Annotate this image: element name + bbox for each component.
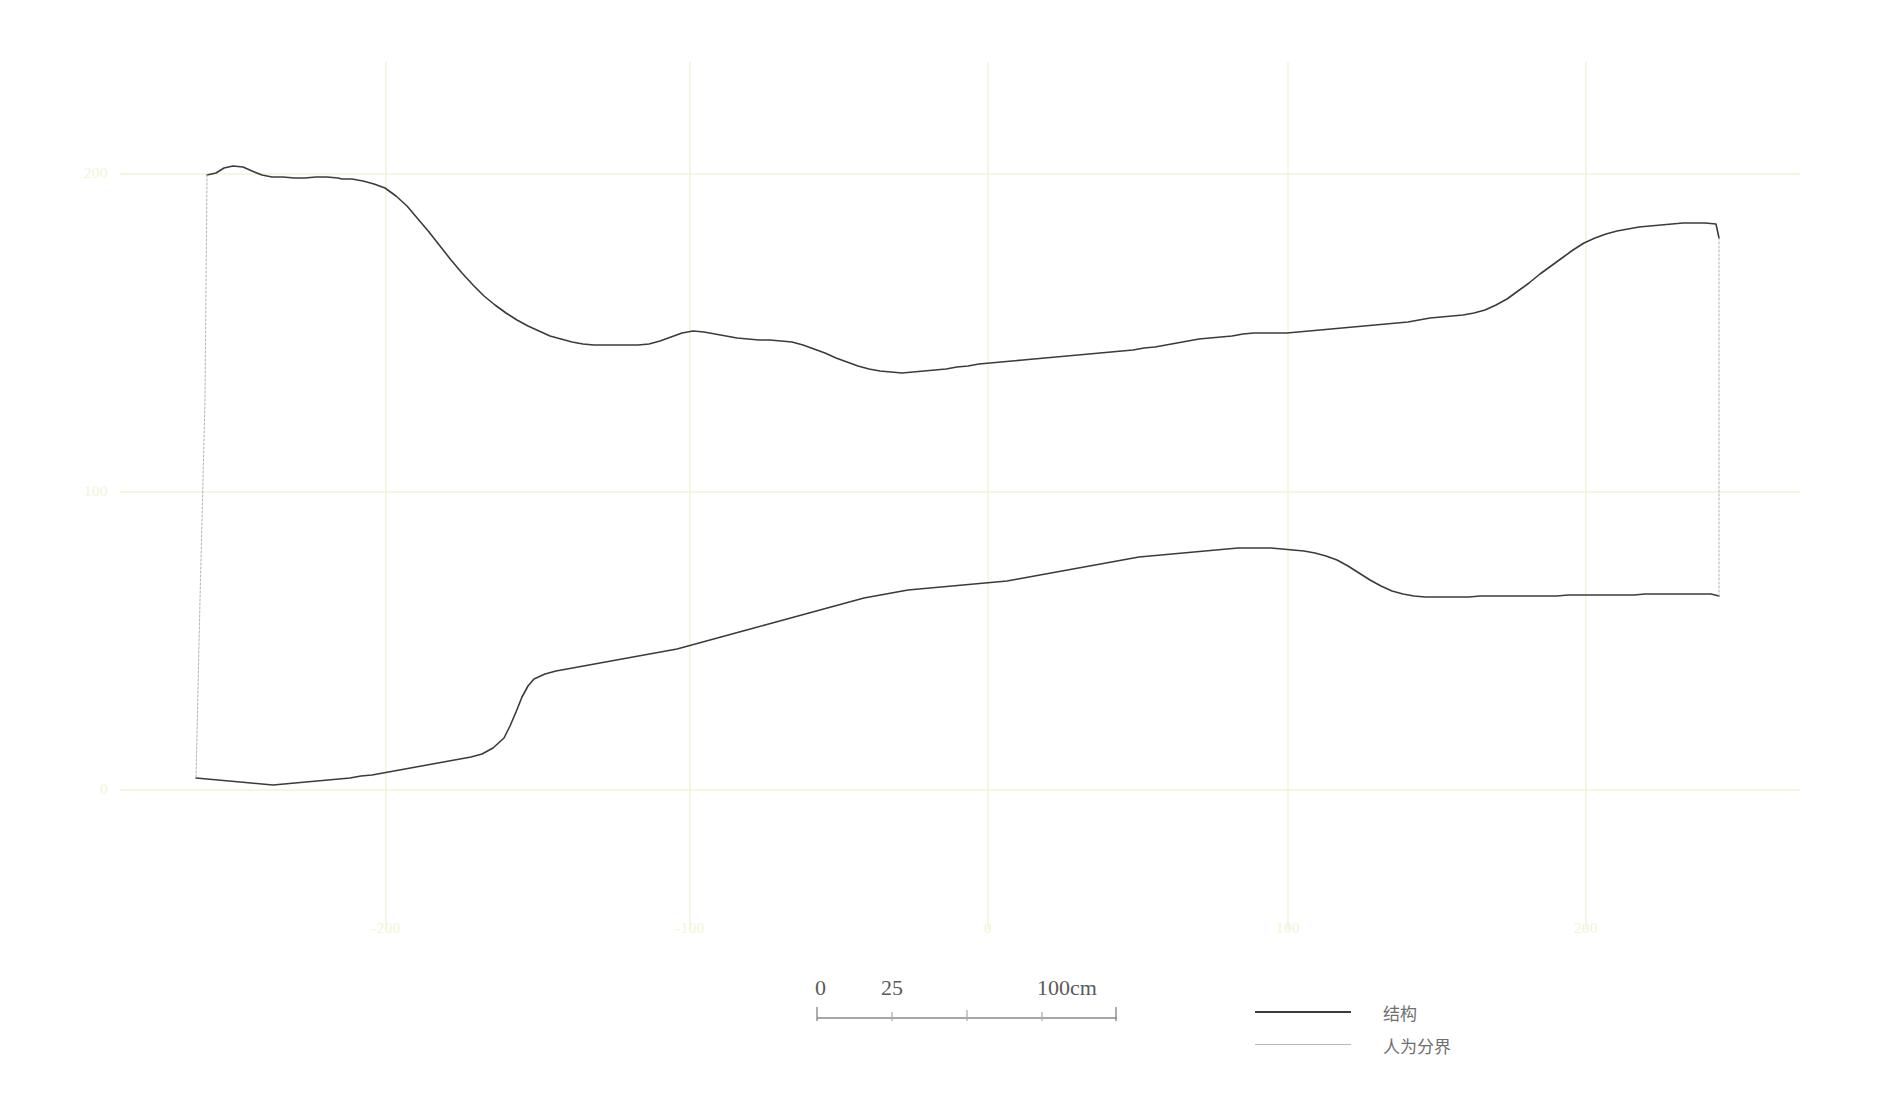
legend: 结构 人为分界 [1255, 998, 1575, 1068]
scale-label-100: 100cm [1037, 975, 1097, 1001]
legend-item-boundary: 人为分界 [1255, 1031, 1575, 1061]
y-axis-tick-label: 200 [62, 165, 108, 182]
legend-item-structure: 结构 [1255, 998, 1575, 1028]
scale-label-0: 0 [815, 975, 826, 1001]
structure-contour-line [196, 548, 1719, 785]
x-axis-tick-label: -200 [346, 920, 426, 937]
legend-swatch-boundary-icon [1255, 1044, 1351, 1045]
scale-bar-ruler [815, 1003, 1175, 1027]
structure-contour-line [207, 166, 1719, 373]
legend-label-structure: 结构 [1383, 1000, 1417, 1025]
y-axis-tick-label: 0 [62, 781, 108, 798]
x-axis-tick-label: 100 [1248, 920, 1328, 937]
y-axis-tick-label: 100 [62, 483, 108, 500]
profile-series [196, 166, 1719, 785]
x-axis-tick-label: 0 [948, 920, 1028, 937]
scale-bar: 0 25 100cm [815, 975, 1175, 1045]
grid-lines [120, 62, 1800, 930]
drawing-canvas: 2001000 -200-1000100200 0 25 100cm 结构 人为… [0, 0, 1886, 1101]
legend-label-boundary: 人为分界 [1383, 1033, 1451, 1058]
legend-swatch-structure-icon [1255, 1011, 1351, 1013]
scale-label-25: 25 [881, 975, 903, 1001]
artificial-boundary-line [196, 175, 207, 778]
x-axis-tick-label: 200 [1546, 920, 1626, 937]
x-axis-tick-label: -100 [650, 920, 730, 937]
